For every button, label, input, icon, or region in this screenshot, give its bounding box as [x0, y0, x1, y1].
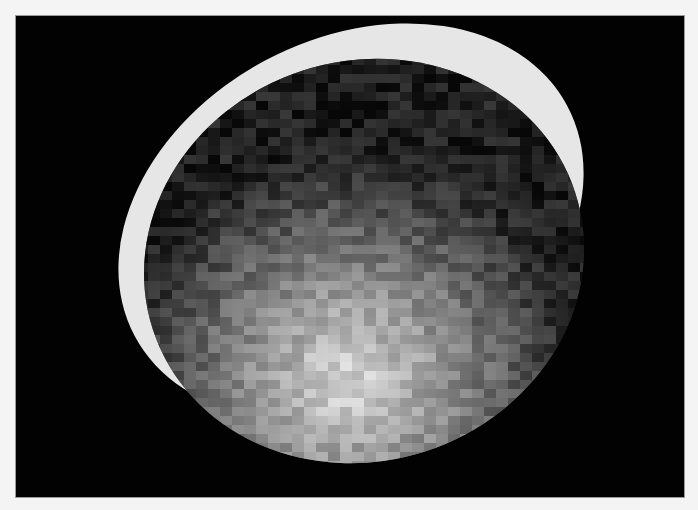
- image-frame: [15, 15, 685, 498]
- planet-image: [16, 16, 685, 498]
